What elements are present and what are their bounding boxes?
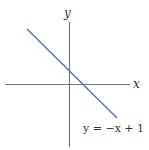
function-line <box>27 29 117 118</box>
graph: x y y = −x + 1 <box>0 0 149 150</box>
x-axis-label: x <box>133 77 140 91</box>
equation-label: y = −x + 1 <box>82 122 144 135</box>
y-axis-label: y <box>63 6 71 20</box>
